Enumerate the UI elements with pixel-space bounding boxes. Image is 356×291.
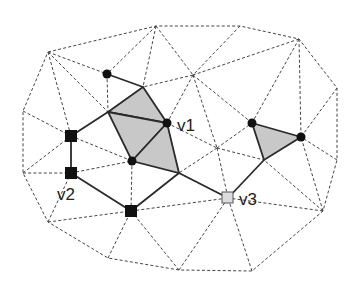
vertex-square-s3	[125, 205, 137, 217]
mesh-diagram: v1 v2 v3	[0, 0, 356, 291]
shaded-face-4	[252, 123, 301, 160]
vertex-square-s1	[65, 130, 77, 142]
label-v2: v2	[57, 185, 75, 204]
label-v3: v3	[239, 190, 257, 209]
vertex-dot-t1	[248, 119, 257, 128]
vertex-dot-v1	[163, 119, 172, 128]
shaded-faces	[108, 87, 301, 173]
vertex-square-v3	[222, 192, 233, 203]
label-v1: v1	[177, 116, 195, 135]
vertex-dot-t2	[297, 133, 306, 142]
vertex-dot-a	[103, 70, 112, 79]
vertex-square-v2	[65, 167, 77, 179]
vertex-dot-d	[128, 157, 137, 166]
